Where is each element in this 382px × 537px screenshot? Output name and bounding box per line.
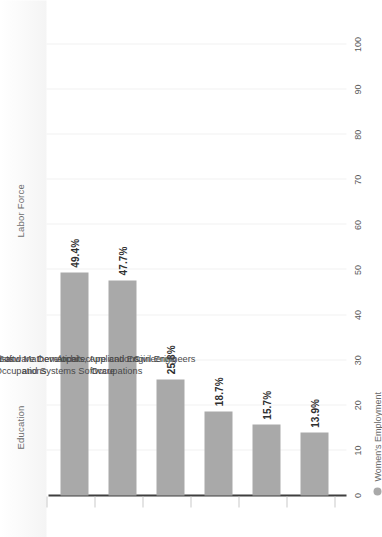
bar[interactable]	[60, 272, 88, 495]
category-tick	[334, 496, 335, 507]
bar-row[interactable]: 13.9%	[300, 398, 328, 495]
x-tick-label: 10	[352, 445, 362, 455]
value-axis-ticks: 0102030405060708090100	[348, 0, 372, 495]
legend-label-womens-employment: Women's Employment	[372, 391, 382, 481]
category-tick	[94, 496, 95, 507]
legend-circle-icon	[373, 487, 381, 495]
category-tick	[286, 496, 287, 507]
x-tick-label: 0	[352, 492, 362, 497]
bar-row[interactable]: 18.7%	[204, 377, 232, 495]
bar[interactable]	[300, 432, 328, 495]
bar-value-label: 15.7%	[261, 390, 272, 419]
bar-value-label: 18.7%	[213, 377, 224, 406]
x-tick-label: 60	[352, 219, 362, 229]
category-label: Civil Engineers	[89, 353, 239, 365]
plot-area: 49.4%47.7%25.8%18.7%15.7%13.9% 010203040…	[46, 0, 358, 537]
bar-series: 49.4%47.7%25.8%18.7%15.7%13.9%	[46, 0, 358, 495]
x-tick-label: 40	[352, 310, 362, 320]
x-tick-label: 20	[352, 400, 362, 410]
header-band: Education Labor Force	[0, 0, 46, 537]
category-tick	[238, 496, 239, 507]
bar-value-label: 47.7%	[117, 246, 128, 275]
x-tick-label: 70	[352, 174, 362, 184]
category-tick	[190, 496, 191, 507]
bar[interactable]	[156, 379, 184, 495]
x-tick-label: 30	[352, 355, 362, 365]
bar[interactable]	[108, 280, 136, 495]
category-tick	[142, 496, 143, 507]
bar[interactable]	[204, 411, 232, 495]
x-tick-label: 80	[352, 129, 362, 139]
bar-row[interactable]: 15.7%	[252, 390, 280, 495]
x-tick-label: 100	[352, 36, 362, 51]
header-label-labor-force: Labor Force	[14, 184, 25, 237]
bar-value-label: 13.9%	[309, 398, 320, 427]
chart-legend: Women's Employment	[372, 391, 382, 495]
bar[interactable]	[252, 424, 280, 495]
x-tick-label: 50	[352, 264, 362, 274]
header-label-education: Education	[14, 405, 25, 449]
x-tick-label: 90	[352, 84, 362, 94]
bar-value-label: 49.4%	[69, 238, 80, 267]
category-tick	[46, 496, 47, 507]
